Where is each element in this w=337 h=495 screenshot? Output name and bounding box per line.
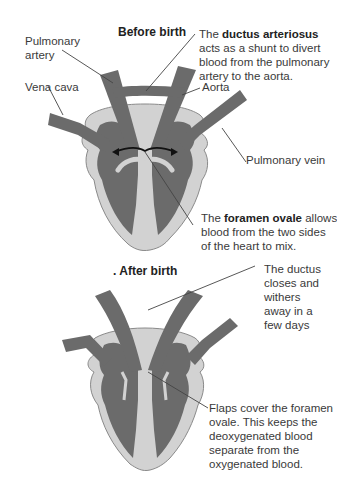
foramen-ovale-note: The foramen ovale allows blood from the … <box>201 211 337 253</box>
flaps-note: Flaps cover the foramen ovale. This keep… <box>209 401 333 471</box>
aorta-label: Aorta <box>202 80 230 94</box>
ductus-arteriosus-note: The ductus arteriosus acts as a shunt to… <box>199 27 329 83</box>
pulmonary-vein-label: Pulmonary vein <box>246 153 325 167</box>
pulmonary-artery-label: Pulmonary artery <box>25 34 80 62</box>
after-birth-title: . After birth <box>113 264 177 278</box>
vena-cava-label: Vena cava <box>25 80 79 94</box>
ductus-closes-note: The ductus closes and withers away in a … <box>264 262 321 332</box>
before-birth-title: Before birth <box>118 25 186 39</box>
